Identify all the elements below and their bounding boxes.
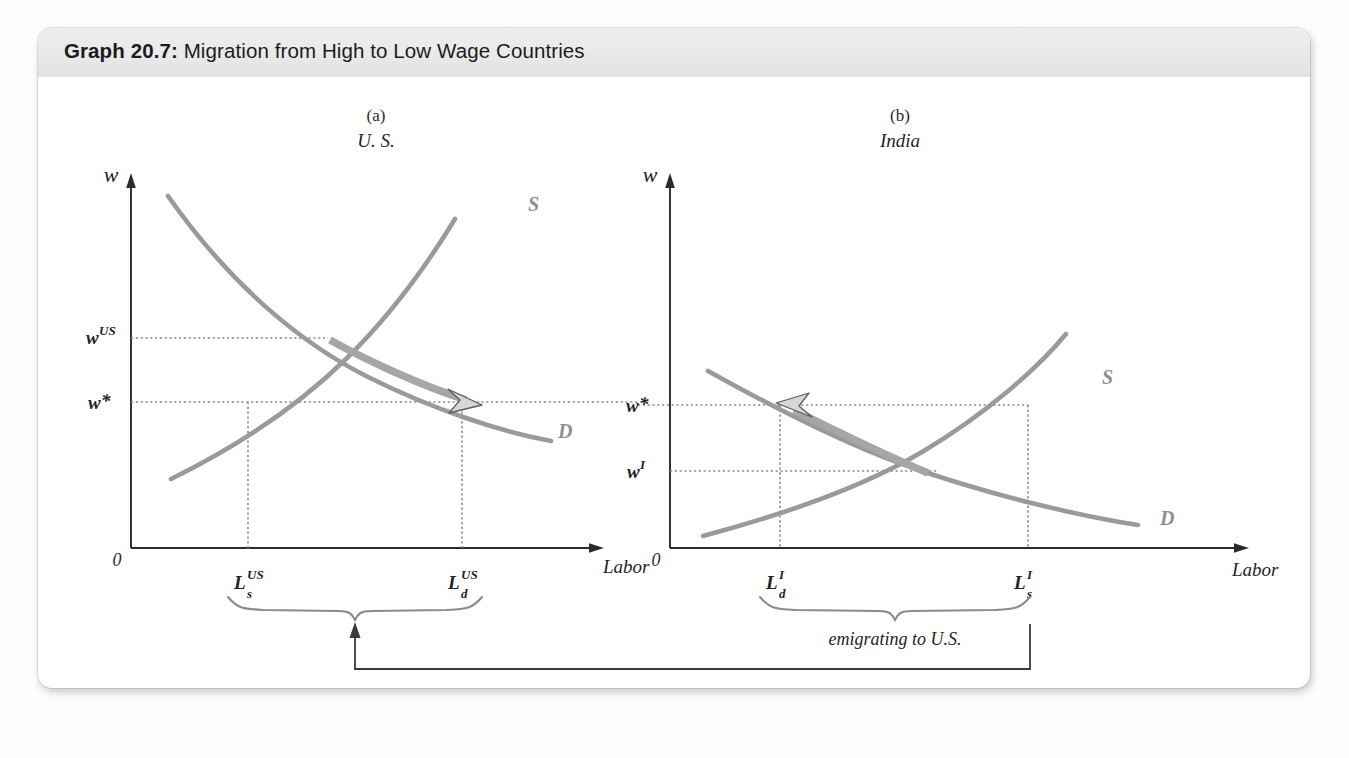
panel-a-labor-tick-ls: L s US [233, 567, 264, 601]
panel-b-labor-tick-ld-sub: d [779, 586, 786, 601]
panel-b-labor-tick-ls-sup: I [1026, 567, 1033, 582]
panel-a-wage-tick-w-us-base: w [86, 327, 99, 348]
panel-a-labor-tick-ld-sub: d [461, 586, 468, 601]
panel-b-wage-tick-w-i-base: w [627, 461, 640, 482]
panel-a-labor-tick-ls-base: L [233, 572, 246, 593]
panel-a-country: U. S. [357, 130, 394, 151]
panel-b: (b) India w Labor 0 [626, 106, 1279, 649]
panel-a-supply-curve-label: S [528, 193, 539, 215]
panel-a-demand-curve-label: D [557, 420, 572, 442]
panel-a-wage-tick-w-us-sup: US [99, 323, 116, 338]
panel-b-labor-tick-ld-sup: I [778, 567, 785, 582]
panel-a-immigration-brace [228, 597, 482, 620]
panel-a-wage-tick-w-star: w * [88, 390, 111, 413]
panel-a-x-axis-label: Labor [602, 556, 650, 577]
panel-b-letter: (b) [890, 106, 910, 125]
figure-canvas: (a) U. S. w Labor 0 [38, 28, 1310, 688]
panel-b-x-axis-label: Labor [1231, 559, 1279, 580]
panel-b-supply-curve-label: S [1102, 366, 1113, 388]
panel-a-y-axis-label: w [104, 162, 119, 187]
panel-a-supply-curve [171, 219, 455, 479]
panel-a: (a) U. S. w Labor 0 [86, 106, 650, 620]
panel-b-x-axis: Labor 0 [652, 543, 1280, 580]
figure-page: Graph 20.7: Migration from High to Low W… [0, 0, 1349, 758]
panel-b-labor-tick-ls-base: L [1013, 572, 1026, 593]
panel-b-brace-note: emigrating to U.S. [829, 629, 962, 649]
panel-a-x-axis: Labor 0 [113, 543, 651, 577]
panel-b-wage-tick-w-i-sup: I [639, 457, 646, 472]
panel-a-labor-tick-ld-base: L [447, 572, 460, 593]
panel-a-labor-tick-ld-sup: US [461, 567, 478, 582]
panel-b-wage-tick-w-i: w I [627, 457, 646, 482]
panel-a-letter: (a) [367, 106, 386, 125]
panel-b-country: India [879, 130, 920, 151]
panel-b-y-axis: w [643, 162, 675, 548]
panel-a-origin-label: 0 [113, 550, 122, 570]
panel-b-wage-tick-w-star: w * [626, 393, 649, 416]
panel-b-supply-curve [703, 334, 1066, 536]
panel-b-labor-tick-ls: L s I [1013, 567, 1033, 601]
panel-a-wage-tick-w-star-mark: * [101, 390, 111, 411]
panel-a-labor-tick-ls-sup: US [247, 567, 264, 582]
panel-b-demand-curve-label: D [1159, 507, 1174, 529]
panel-a-wage-tick-w-us: w US [86, 323, 116, 348]
panel-b-origin-label: 0 [652, 550, 661, 570]
panel-b-emigration-brace [760, 597, 1030, 620]
panel-a-y-axis: w [104, 162, 136, 548]
panel-b-demand-curve [708, 371, 1138, 525]
panel-a-demand-curve [168, 196, 551, 441]
panel-b-wage-tick-w-star-mark: * [639, 393, 649, 414]
panel-b-wage-tick-w-star-base: w [626, 395, 639, 416]
panel-a-labor-tick-ls-sub: s [246, 586, 252, 601]
panel-b-y-axis-label: w [643, 162, 658, 187]
figure-card: Graph 20.7: Migration from High to Low W… [38, 28, 1310, 688]
panel-a-wage-tick-w-star-base: w [88, 392, 101, 413]
panel-b-wage-rise-arrow [776, 393, 928, 473]
panel-a-labor-tick-ld: L d US [447, 567, 478, 601]
panel-b-labor-tick-ld: L d I [765, 567, 786, 601]
panel-b-labor-tick-ld-base: L [765, 572, 778, 593]
